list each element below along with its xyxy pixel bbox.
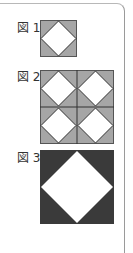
figure-1-diamond-square-icon	[40, 20, 77, 57]
figure-3-large-diamond-icon	[40, 150, 114, 224]
figure-3-label-text: 図 3	[17, 151, 40, 165]
figure-1-label-text: 図 1	[17, 21, 40, 35]
figure-2-label: 図 2	[17, 70, 40, 84]
figure-2-label-text: 図 2	[17, 70, 40, 84]
figure-1-label: 図 1	[17, 21, 40, 35]
figure-3-label: 図 3	[17, 151, 40, 165]
figure-3	[40, 150, 114, 224]
figure-2-tiled-diamonds-icon	[40, 70, 114, 144]
figure-1	[40, 20, 77, 57]
figure-2	[40, 70, 114, 144]
